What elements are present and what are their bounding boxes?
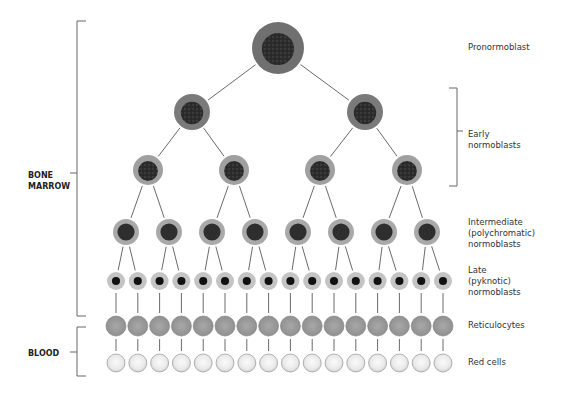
blood-bracket	[77, 327, 86, 376]
cell-lineage-tree	[0, 0, 563, 396]
reticulocyte-cell	[324, 316, 344, 336]
red-cell	[216, 354, 234, 372]
region-label-bone-marrow: BONE MARROW	[28, 170, 70, 192]
red-cell	[281, 354, 299, 372]
reticulocyte-cell	[150, 316, 170, 336]
erythropoiesis-diagram: Pronormoblast Early normoblasts Intermed…	[0, 0, 563, 396]
lineage-connector	[239, 186, 250, 218]
reticulocyte-cell	[193, 316, 213, 336]
red-cell	[325, 354, 343, 372]
lineage-connector	[302, 246, 309, 270]
red-cell	[390, 354, 408, 372]
lineage-connector	[216, 246, 222, 270]
late-normoblast-nucleus	[177, 277, 185, 285]
red-cell	[151, 354, 169, 372]
late-normoblast-nucleus	[308, 277, 316, 285]
red-cell	[347, 354, 365, 372]
reticulocyte-cell	[433, 316, 453, 336]
lineage-connector	[379, 247, 382, 270]
red-cell	[434, 354, 452, 372]
intermediate-normoblast-nucleus	[117, 223, 134, 240]
lineage-connector	[303, 186, 314, 218]
early-normoblast-nucleus	[354, 102, 376, 124]
reticulocyte-cell	[215, 316, 235, 336]
red-cell	[303, 354, 321, 372]
red-cell	[369, 354, 387, 372]
lineage-connector	[130, 247, 136, 271]
early-normoblast-nucleus	[397, 161, 417, 181]
label-intermediate-normoblasts: Intermediate (polychromatic) normoblasts	[468, 217, 535, 250]
intermediate-normoblast-nucleus	[203, 223, 220, 240]
early-normoblast-nucleus	[138, 161, 158, 181]
early-normoblast-nucleus	[310, 161, 330, 181]
late-normoblast-nucleus	[330, 277, 338, 285]
late-normoblast-nucleus	[199, 277, 207, 285]
reticulocyte-cell	[346, 316, 366, 336]
intermediate-normoblast-nucleus	[160, 223, 177, 240]
intermediate-normoblast-nucleus	[375, 223, 392, 240]
reticulocyte-cell	[106, 316, 126, 336]
reticulocyte-cell	[368, 316, 388, 336]
intermediate-normoblast-nucleus	[332, 223, 349, 240]
lineage-connector	[422, 247, 425, 270]
lineage-connector	[377, 128, 397, 156]
red-cell	[238, 354, 256, 372]
lineage-connector	[388, 246, 396, 270]
reticulocyte-cell	[302, 316, 322, 336]
reticulocyte-cell	[128, 316, 148, 336]
late-normoblast-nucleus	[352, 277, 360, 285]
red-cell	[129, 354, 147, 372]
label-reticulocytes: Reticulocytes	[468, 320, 525, 331]
lineage-connector	[412, 186, 422, 218]
early-normoblasts-bracket	[449, 88, 457, 186]
lineage-connector	[153, 186, 164, 218]
reticulocyte-cell	[280, 316, 300, 336]
intermediate-normoblast-nucleus	[246, 223, 263, 240]
lineage-connector	[301, 65, 349, 101]
lineage-connector	[204, 128, 224, 156]
late-normoblast-nucleus	[286, 277, 294, 285]
late-normoblast-nucleus	[265, 277, 273, 285]
lineage-connector	[118, 247, 123, 271]
lineage-connector	[208, 65, 255, 100]
label-early-normoblasts: Early normoblasts	[468, 129, 521, 151]
lineage-connector	[389, 186, 401, 218]
red-cell	[260, 354, 278, 372]
red-cell	[172, 354, 190, 372]
late-normoblast-nucleus	[156, 277, 164, 285]
red-cell	[194, 354, 212, 372]
lineage-connector	[217, 186, 228, 218]
lineage-connector	[158, 128, 180, 157]
lineage-connector	[131, 186, 142, 218]
late-normoblast-nucleus	[243, 277, 251, 285]
lineage-connector	[330, 128, 352, 157]
region-label-blood: BLOOD	[28, 348, 59, 359]
lineage-connector	[432, 246, 440, 270]
reticulocyte-cell	[389, 316, 409, 336]
reticulocyte-cell	[259, 316, 279, 336]
reticulocyte-cell	[171, 316, 191, 336]
red-cell	[107, 354, 125, 372]
late-normoblast-nucleus	[221, 277, 229, 285]
lineage-connector	[336, 247, 339, 270]
lineage-connector	[205, 247, 209, 270]
lineage-connector	[162, 247, 167, 270]
early-normoblast-nucleus	[224, 161, 244, 181]
lineage-connector	[292, 247, 296, 270]
late-normoblast-nucleus	[374, 277, 382, 285]
label-late-normoblasts: Late (pyknotic) normoblasts	[468, 265, 521, 298]
lineage-connector	[345, 246, 352, 270]
reticulocyte-cell	[237, 316, 257, 336]
early-normoblast-nucleus	[181, 102, 203, 124]
bone-marrow-bracket	[77, 21, 86, 316]
late-normoblast-nucleus	[134, 277, 142, 285]
reticulocyte-cell	[411, 316, 431, 336]
lineage-connector	[249, 247, 253, 270]
intermediate-normoblast-nucleus	[418, 223, 435, 240]
late-normoblast-nucleus	[417, 277, 425, 285]
lineage-connector	[325, 186, 336, 218]
late-normoblast-nucleus	[112, 277, 120, 285]
late-normoblast-nucleus	[395, 277, 403, 285]
label-red-cells: Red cells	[468, 357, 506, 368]
label-pronormoblast: Pronormoblast	[468, 42, 530, 53]
